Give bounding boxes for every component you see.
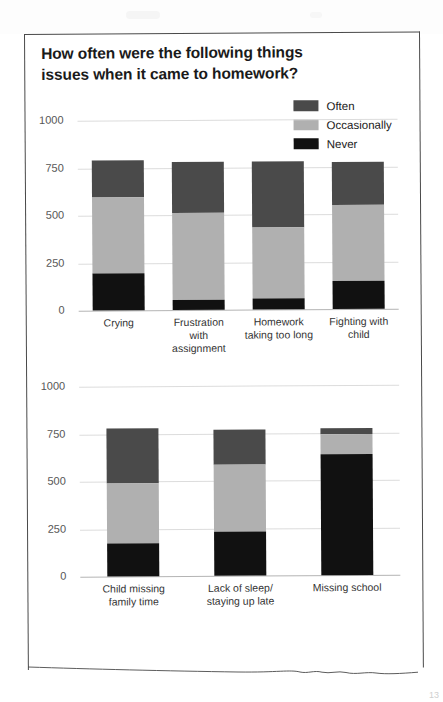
legend-label-often: Often xyxy=(326,99,354,111)
legend-swatch-often xyxy=(293,100,318,111)
y-axis-tick-750: 750 xyxy=(4,161,64,173)
bar-slot xyxy=(79,386,187,577)
x-axis-label: Fighting withchild xyxy=(319,315,399,355)
bar-segment-occasionally[interactable] xyxy=(92,197,144,273)
legend-item-often: Often xyxy=(293,97,391,115)
bar-segment-occasionally[interactable] xyxy=(107,483,159,543)
bar-segment-occasionally[interactable] xyxy=(252,228,304,299)
y-axis-tick-500: 500 xyxy=(4,209,64,221)
bar-segment-occasionally[interactable] xyxy=(172,213,225,300)
stacked-bar[interactable] xyxy=(252,161,305,310)
scan-background xyxy=(0,0,443,34)
stacked-bar[interactable] xyxy=(320,428,373,576)
stacked-bar[interactable] xyxy=(172,162,225,310)
page-title-line-2: issues when it came to homework? xyxy=(41,63,381,86)
bar-segment-never[interactable] xyxy=(92,273,144,310)
plot-area-bottom: 02505007501000 xyxy=(79,385,400,577)
bar-slot xyxy=(186,385,294,576)
bar-slot xyxy=(238,119,319,309)
x-axis-label: Child missingfamily time xyxy=(80,582,187,609)
stacked-bar[interactable] xyxy=(213,429,266,576)
bar-segment-often[interactable] xyxy=(213,429,265,464)
y-axis-tick-1000: 1000 xyxy=(3,114,63,126)
bar-segment-often[interactable] xyxy=(92,160,144,197)
y-axis-tick-0: 0 xyxy=(6,570,66,582)
stacked-bar-chart-bottom: 02505007501000 Child missingfamily timeL… xyxy=(27,385,424,607)
bar-segment-occasionally[interactable] xyxy=(332,205,384,281)
bar-slot xyxy=(78,120,159,310)
x-axis-label: Missing school xyxy=(294,581,401,608)
bar-segment-often[interactable] xyxy=(252,161,304,228)
bar-group xyxy=(79,385,400,577)
bar-segment-never[interactable] xyxy=(107,543,159,577)
bar-segment-often[interactable] xyxy=(172,162,224,214)
bar-segment-often[interactable] xyxy=(107,428,159,483)
page-number-mark: 13 xyxy=(429,690,439,700)
bar-segment-never[interactable] xyxy=(320,454,373,575)
x-axis-label: Frustrationwithassignment xyxy=(159,316,239,356)
x-axis-label: Lack of sleep/staying up late xyxy=(187,581,294,608)
stacked-bar[interactable] xyxy=(107,428,160,577)
y-axis-tick-250: 250 xyxy=(4,256,64,268)
bar-segment-often[interactable] xyxy=(332,162,384,206)
x-axis-labels-top: CryingFrustrationwithassignmentHomeworkt… xyxy=(79,315,399,356)
x-axis-labels-bottom: Child missingfamily timeLack of sleep/st… xyxy=(80,581,400,609)
bar-slot xyxy=(318,119,399,309)
y-axis-tick-0: 0 xyxy=(5,304,65,316)
y-axis-tick-750: 750 xyxy=(5,427,65,439)
x-axis-label: Homeworktaking too long xyxy=(239,315,319,355)
y-axis-tick-500: 500 xyxy=(6,475,66,487)
scan-smudge xyxy=(310,12,322,18)
stacked-bar[interactable] xyxy=(92,160,145,310)
bar-segment-occasionally[interactable] xyxy=(214,464,266,532)
bar-segment-occasionally[interactable] xyxy=(320,434,372,454)
bar-slot xyxy=(292,385,400,576)
stacked-bar[interactable] xyxy=(332,162,385,310)
bar-segment-never[interactable] xyxy=(253,298,305,310)
plot-area-top: 02505007501000 xyxy=(78,119,399,311)
y-axis-tick-1000: 1000 xyxy=(5,380,65,392)
bar-slot xyxy=(158,120,239,310)
page-title: How often were the following things issu… xyxy=(41,42,381,86)
page-title-line-1: How often were the following things xyxy=(41,42,381,65)
scanned-page-sheet: How often were the following things issu… xyxy=(24,32,424,670)
bar-segment-never[interactable] xyxy=(214,532,266,576)
bar-segment-never[interactable] xyxy=(333,281,385,309)
bar-segment-never[interactable] xyxy=(173,299,225,310)
page-bottom-edge xyxy=(28,666,418,676)
stacked-bar-chart-top: 02505007501000 CryingFrustrationwithassi… xyxy=(26,119,423,341)
x-axis-label: Crying xyxy=(79,316,159,356)
bar-group xyxy=(78,119,399,311)
scan-smudge xyxy=(126,11,160,19)
y-axis-tick-250: 250 xyxy=(6,522,66,534)
